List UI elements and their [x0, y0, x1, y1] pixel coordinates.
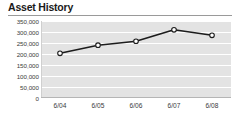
y-axis-tick-label: 250,000	[0, 40, 39, 47]
data-point-marker	[58, 51, 63, 56]
data-point-marker	[210, 33, 215, 38]
line-series	[41, 21, 231, 98]
plot-area	[41, 21, 231, 98]
asset-history-chart-widget: Asset History 350,000300,000250,000200,0…	[0, 0, 238, 121]
y-axis-tick-label: 0	[0, 95, 39, 102]
plot-container	[41, 21, 231, 98]
x-axis-tick-label: 6/08	[206, 101, 219, 110]
page-title: Asset History	[8, 1, 73, 14]
x-axis-tick-label: 6/06	[130, 101, 143, 110]
x-axis-tick-labels: 6/046/056/066/076/08	[41, 101, 231, 113]
data-point-marker	[96, 43, 101, 48]
y-axis-tick-label: 350,000	[0, 18, 39, 25]
y-axis-tick-label: 100,000	[0, 73, 39, 80]
chart-header: Asset History	[0, 0, 238, 18]
y-axis-line	[41, 21, 42, 98]
data-point-marker	[172, 28, 177, 33]
y-axis-tick-label: 50,000	[0, 84, 39, 91]
x-axis-tick-label: 6/07	[168, 101, 181, 110]
y-axis-tick-label: 200,000	[0, 51, 39, 58]
x-axis-tick-label: 6/04	[54, 101, 67, 110]
x-axis-tick-label: 6/05	[92, 101, 105, 110]
data-point-marker	[134, 39, 139, 44]
y-axis-tick-label: 300,000	[0, 29, 39, 36]
x-axis-line	[41, 97, 231, 98]
title-divider	[8, 15, 232, 16]
y-axis-tick-labels: 350,000300,000250,000200,000150,000100,0…	[0, 21, 39, 98]
y-axis-tick-label: 150,000	[0, 62, 39, 69]
